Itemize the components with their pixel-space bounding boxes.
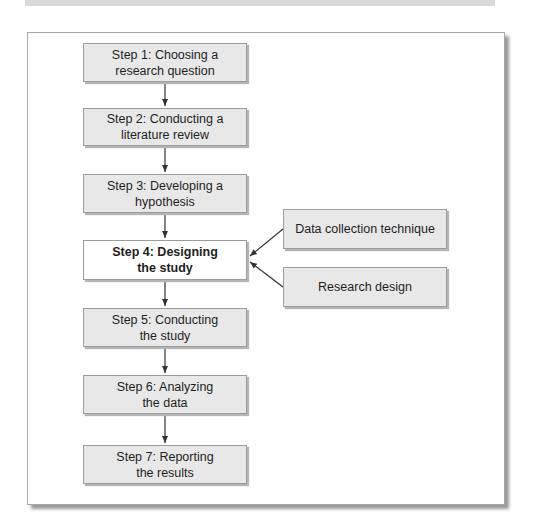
step-1-box: Step 1: Choosing a research question xyxy=(83,43,247,82)
step-6-label: Step 6: Analyzing the data xyxy=(117,379,214,411)
step-6-box: Step 6: Analyzing the data xyxy=(83,375,247,414)
step-3-label: Step 3: Developing a hypothesis xyxy=(107,178,223,210)
step-2-label: Step 2: Conducting a literature review xyxy=(107,111,224,143)
arrow-research-design-to-step4 xyxy=(250,262,283,287)
data-collection-technique-box: Data collection technique xyxy=(283,209,447,249)
arrow-data-collection-to-step4 xyxy=(250,229,283,256)
step-5-label: Step 5: Conducting the study xyxy=(112,312,218,344)
step-7-label: Step 7: Reporting the results xyxy=(116,449,213,481)
step-3-box: Step 3: Developing a hypothesis xyxy=(83,174,247,213)
step-4-box: Step 4: Designing the study xyxy=(83,240,247,280)
step-1-label: Step 1: Choosing a research question xyxy=(112,47,218,79)
step-2-box: Step 2: Conducting a literature review xyxy=(83,108,247,146)
research-design-box: Research design xyxy=(283,267,447,307)
step-7-box: Step 7: Reporting the results xyxy=(83,445,247,484)
connector-arrows xyxy=(0,0,533,532)
research-design-label: Research design xyxy=(318,279,412,295)
data-collection-technique-label: Data collection technique xyxy=(295,221,435,237)
step-5-box: Step 5: Conducting the study xyxy=(83,308,247,347)
step-4-label: Step 4: Designing the study xyxy=(112,244,218,276)
